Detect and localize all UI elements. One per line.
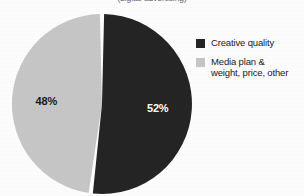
legend-item-media-plan[interactable]: Media plan & weight, price, other [196, 56, 304, 79]
chart-legend: Creative quality Media plan & weight, pr… [196, 37, 304, 86]
pie-slice-creative-quality[interactable] [93, 14, 192, 194]
chart-title: (digital advertising) [0, 0, 304, 3]
legend-label-media-plan-line1: Media plan & [211, 56, 265, 67]
legend-item-creative-quality[interactable]: Creative quality [196, 37, 304, 49]
legend-label-creative-quality: Creative quality [211, 37, 274, 49]
slice-label-creative-quality: 52% [147, 102, 169, 114]
legend-label-creative-quality-line1: Creative quality [211, 37, 274, 48]
pie-chart-figure: (digital advertising) 52% 48% Creative q… [0, 0, 304, 196]
pie-plot-area: 52% 48% [10, 13, 194, 195]
legend-label-media-plan-line2: weight, price, other [211, 67, 288, 79]
legend-label-media-plan: Media plan & weight, price, other [211, 56, 288, 79]
pie-svg: 52% 48% [10, 13, 194, 195]
legend-swatch-media-plan [196, 58, 205, 67]
slice-label-media-plan: 48% [36, 95, 58, 107]
legend-swatch-creative-quality [196, 39, 205, 48]
